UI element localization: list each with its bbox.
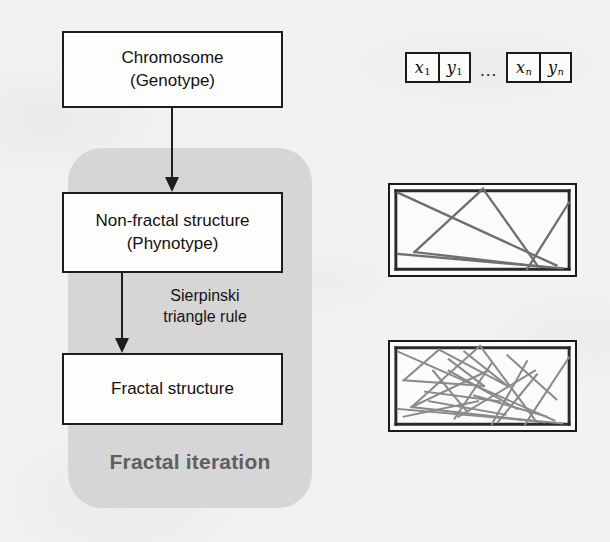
structure-segment: [414, 189, 483, 252]
gene-cell-y1: y1: [438, 54, 469, 81]
nonfractal-node-subtitle: (Phynotype): [127, 233, 219, 255]
structure-segment: [404, 350, 439, 381]
gene-cell-x1: x1: [407, 54, 438, 81]
fractal-iteration-label: Fractal iteration: [68, 450, 312, 474]
gene-yn-symbol: y: [548, 58, 557, 77]
nonfractal-structure-svg: [390, 185, 575, 275]
structure-segment: [464, 352, 507, 386]
figure-canvas: Chromosome (Genotype) Non-fractal struct…: [0, 0, 610, 542]
fractal-structure-svg: [390, 342, 575, 430]
gene-x-symbol: x: [415, 58, 424, 77]
gene-cell-yn: yn: [539, 54, 570, 81]
chromosome-node-title: Chromosome: [121, 47, 223, 69]
gene-strip-ellipsis: ...: [471, 62, 506, 80]
rule-label-line1: Sierpinski: [170, 287, 239, 304]
gene-pair-last: xn yn: [506, 52, 572, 83]
structure-segment: [483, 189, 539, 268]
chromosome-node-subtitle: (Genotype): [130, 70, 215, 92]
gene-xn-symbol: x: [516, 58, 525, 77]
gene-y-symbol: y: [447, 58, 456, 77]
structure-segment: [398, 193, 557, 266]
structure-segment: [474, 396, 546, 417]
fractal-node-title: Fractal structure: [111, 378, 234, 400]
chromosome-node: Chromosome (Genotype): [62, 31, 283, 108]
gene-pair-first: x1 y1: [405, 52, 471, 83]
nonfractal-structure-image: [388, 183, 577, 277]
gene-yn-subscript: n: [558, 66, 564, 77]
gene-xn-subscript: n: [526, 66, 532, 77]
nonfractal-structure-node: Non-fractal structure (Phynotype): [62, 192, 283, 273]
sierpinski-rule-label: Sierpinski triangle rule: [140, 286, 270, 328]
structure-segment: [527, 202, 569, 269]
fractal-structure-image: [388, 340, 577, 432]
gene-y-subscript: 1: [456, 66, 462, 77]
gene-cell-xn: xn: [508, 54, 539, 81]
chromosome-gene-strip: x1 y1 ... xn yn: [405, 52, 572, 83]
fractal-structure-node: Fractal structure: [62, 353, 283, 425]
nonfractal-node-title: Non-fractal structure: [96, 210, 250, 232]
gene-x-subscript: 1: [424, 66, 430, 77]
rule-label-line2: triangle rule: [163, 308, 247, 325]
